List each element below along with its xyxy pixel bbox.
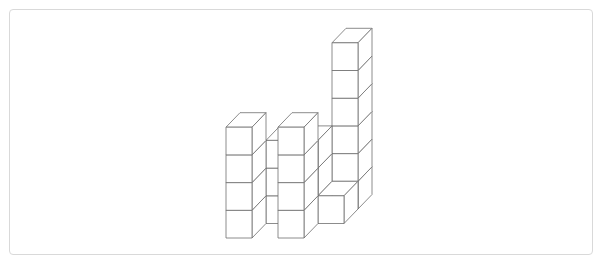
cube-front-face (332, 126, 358, 154)
cube-front-face (278, 127, 304, 155)
cube-front-face (318, 196, 344, 224)
cube-front-face (332, 71, 358, 99)
cube-front-face (332, 154, 358, 182)
cube-front-face (332, 43, 358, 71)
cube-front-face (278, 210, 304, 238)
cube-front-face (226, 155, 252, 183)
cube-front-face (278, 155, 304, 183)
cube-front-face (278, 183, 304, 211)
cube-front-face (226, 210, 252, 238)
cube-front-face (226, 183, 252, 211)
cube-stack-diagram (0, 0, 602, 269)
cube-front-face (332, 98, 358, 126)
cube-front-face (226, 127, 252, 155)
